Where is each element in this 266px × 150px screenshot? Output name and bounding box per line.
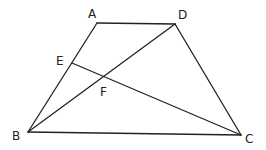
segment-EC bbox=[72, 63, 241, 135]
segment-BD bbox=[28, 24, 175, 132]
segment-AD bbox=[97, 23, 175, 24]
label-E: E bbox=[56, 54, 64, 68]
segment-BC bbox=[28, 132, 241, 135]
label-B: B bbox=[12, 129, 20, 143]
label-A: A bbox=[88, 7, 97, 21]
label-F: F bbox=[100, 85, 107, 99]
trapezoid-diagram: A D B C E F bbox=[0, 0, 266, 150]
segment-AB bbox=[28, 23, 97, 132]
label-C: C bbox=[245, 132, 253, 146]
label-D: D bbox=[178, 8, 187, 22]
segment-DC bbox=[175, 24, 241, 135]
